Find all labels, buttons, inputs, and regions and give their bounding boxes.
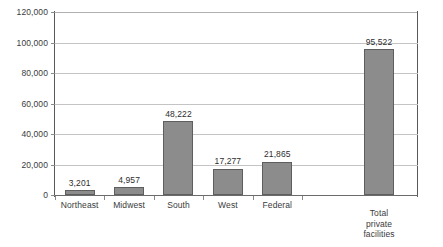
x-axis-category-label: Total private facilities [363,208,394,240]
y-tick-label: 120,000 [17,8,48,17]
y-tick-label: 20,000 [21,160,48,169]
y-tick-label: 100,000 [17,38,48,47]
bar-slot: 4,957 [104,12,153,195]
bar-slot: 3,201 [55,12,104,195]
bar-value-label: 21,865 [264,150,291,159]
x-axis-labels: NortheastMidwestSouthWestFederalTotal pr… [55,200,418,246]
bar-slot: 17,277 [203,12,252,195]
bar-value-label: 17,277 [215,157,242,166]
bar-value-label: 3,201 [69,179,91,188]
y-tick-label: 60,000 [21,99,48,108]
x-axis-category-label: West [218,200,238,211]
bar[interactable] [65,190,95,195]
y-axis-labels: 120,000 100,000 80,000 60,000 40,000 20,… [0,0,52,196]
x-axis-category-label: Northeast [61,200,99,211]
bar[interactable] [262,162,292,195]
x-axis-category-label: Federal [263,200,293,211]
bar-value-label: 4,957 [118,176,140,185]
plot-area: 3,2014,95748,22217,27721,86595,522 [55,12,418,196]
y-tick-label: 0 [43,191,48,200]
bar-value-label: 48,222 [165,110,192,119]
bar[interactable] [114,187,144,195]
bar-slot: 95,522 [354,12,403,195]
bar[interactable] [364,49,394,195]
y-tick-label: 80,000 [21,69,48,78]
bar[interactable] [213,169,243,195]
bar-slot: 21,865 [253,12,302,195]
x-axis-category-label: South [167,200,190,211]
bar-slot: 48,222 [154,12,203,195]
bar-chart: 120,000 100,000 80,000 60,000 40,000 20,… [0,0,443,247]
y-tick-label: 40,000 [21,130,48,139]
bars-layer: 3,2014,95748,22217,27721,86595,522 [55,12,418,196]
bar[interactable] [163,121,193,195]
bar-value-label: 95,522 [366,38,393,47]
x-axis-category-label: Midwest [113,200,145,211]
